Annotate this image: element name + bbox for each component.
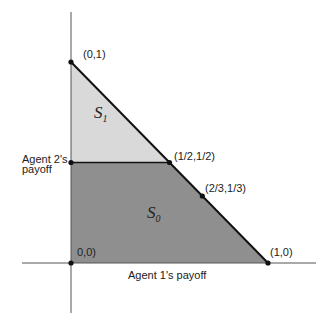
point-p01: [68, 59, 73, 64]
label-point-half-half: (1/2,1/2): [174, 150, 215, 162]
point-p2313: [200, 193, 205, 198]
x-axis-label: Agent 1's payoff: [128, 269, 207, 281]
label-point-0-1: (0,1): [83, 48, 106, 60]
point-y-half: [68, 160, 73, 165]
label-point-2-3-1-3: (2/3,1/3): [205, 182, 246, 194]
payoff-diagram: (0,1) (1/2,1/2) (2/3,1/3) (1,0) 0,0) Age…: [0, 0, 333, 325]
point-phalf: [167, 160, 172, 165]
region-s0: [71, 163, 268, 264]
y-axis-label-line2: payoff: [22, 163, 53, 175]
label-point-1-0: (1,0): [270, 246, 293, 258]
label-origin: 0,0): [77, 246, 96, 258]
point-origin: [68, 260, 73, 265]
point-p10: [265, 260, 270, 265]
